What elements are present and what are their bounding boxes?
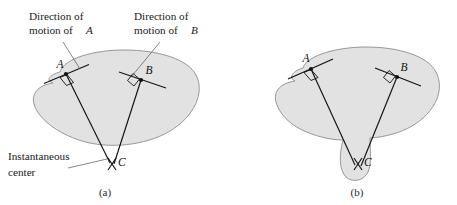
point-a-label-panel-b: A (301, 52, 310, 64)
direction-of-motion-b-line1: Direction of (134, 10, 189, 22)
panel-a-group: A B C Direction of motion of A Direction… (8, 10, 199, 199)
point-b-label-panel-b: B (400, 61, 407, 73)
direction-of-motion-b-line2: motion of (134, 24, 178, 36)
rigid-body-shape-b (275, 47, 439, 180)
direction-of-motion-a-subject: A (85, 24, 93, 36)
leader-line-instantaneous-center (68, 159, 107, 168)
point-b-dot-panel-a (139, 78, 143, 82)
panel-b-group: A B C (b) (275, 47, 439, 199)
point-b-dot-panel-b (395, 75, 399, 79)
point-c-label-panel-a: C (118, 156, 126, 168)
instantaneous-center-line1: Instantaneous (8, 150, 70, 162)
point-a-dot-panel-a (64, 72, 68, 76)
instantaneous-center-figure: A B C Direction of motion of A Direction… (0, 0, 457, 205)
figure-canvas: A B C Direction of motion of A Direction… (0, 0, 457, 205)
direction-of-motion-a-line1: Direction of (29, 10, 84, 22)
caption-panel-a: (a) (99, 186, 112, 199)
point-c-label-panel-b: C (364, 156, 372, 168)
direction-of-motion-a-line2: motion of (29, 24, 73, 36)
direction-of-motion-b-subject: B (191, 24, 198, 36)
point-a-label-panel-a: A (55, 58, 64, 70)
instantaneous-center-line2: center (8, 166, 36, 178)
caption-panel-b: (b) (351, 186, 364, 199)
point-b-label-panel-a: B (145, 64, 152, 76)
point-a-dot-panel-b (309, 67, 313, 71)
